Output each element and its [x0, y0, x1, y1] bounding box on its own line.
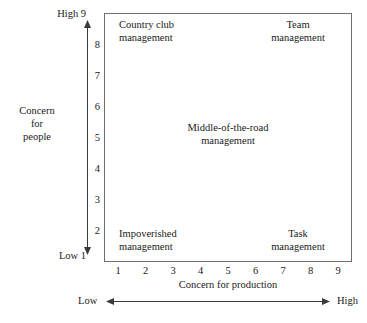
x-axis-tick-5: 5 [221, 264, 235, 277]
x-axis-tick-3: 3 [166, 264, 180, 277]
quadrant-label-team-line-1: Team [255, 19, 341, 32]
x-axis-low-label: Low [78, 294, 97, 308]
y-axis-tick-7: 7 [86, 70, 100, 81]
x-axis-tick-7: 7 [276, 264, 290, 277]
y-axis-tick-4: 4 [86, 163, 100, 174]
x-axis-range-row: Low High [78, 294, 358, 310]
y-axis-tick-8: 8 [86, 39, 100, 50]
x-axis-high-label: High [337, 294, 358, 308]
x-axis-tick-8: 8 [304, 264, 318, 277]
x-axis-tick-1: 1 [111, 264, 125, 277]
quadrant-label-middle-of-the-road-management: Middle-of-the-road management [187, 122, 268, 147]
x-axis-tick-2: 2 [139, 264, 153, 277]
x-axis-title: Concern for production [104, 278, 352, 291]
quadrant-label-country-club-line-2: management [119, 32, 174, 45]
quadrant-label-team-line-2: management [255, 32, 341, 45]
managerial-grid-figure: Concern for people High 9 Low 1 8765432 … [0, 0, 367, 323]
quadrant-label-country-club-management: Country club management [119, 19, 174, 44]
quadrant-label-country-club-line-1: Country club [119, 19, 174, 32]
y-axis-title: Concern for people [4, 104, 70, 143]
y-axis-title-line-1: Concern [4, 104, 70, 117]
quadrant-label-middle-line-2: management [187, 135, 268, 148]
x-axis-tick-6: 6 [249, 264, 263, 277]
y-axis-title-line-2: for [4, 117, 70, 130]
quadrant-label-impoverished-line-2: management [119, 241, 177, 254]
y-axis-tick-6: 6 [86, 101, 100, 112]
x-axis-double-arrow-icon [106, 297, 330, 306]
y-axis-tick-2: 2 [86, 225, 100, 236]
x-axis-tick-4: 4 [194, 264, 208, 277]
grid-plot-area: Country club management Team management … [104, 13, 352, 262]
quadrant-label-impoverished-line-1: Impoverished [119, 228, 177, 241]
y-axis-tick-5: 5 [86, 132, 100, 143]
y-axis-title-line-3: people [4, 130, 70, 143]
quadrant-label-task-management: Task management [255, 228, 341, 253]
quadrant-label-task-line-1: Task [255, 228, 341, 241]
quadrant-label-impoverished-management: Impoverished management [119, 228, 177, 253]
x-axis-tick-9: 9 [331, 264, 345, 277]
y-axis-tick-labels: 8765432 [72, 13, 100, 262]
y-axis-tick-3: 3 [86, 194, 100, 205]
quadrant-label-task-line-2: management [255, 241, 341, 254]
x-axis-tick-labels: 123456789 [104, 264, 352, 278]
quadrant-label-team-management: Team management [255, 19, 341, 44]
quadrant-label-middle-line-1: Middle-of-the-road [187, 122, 268, 135]
